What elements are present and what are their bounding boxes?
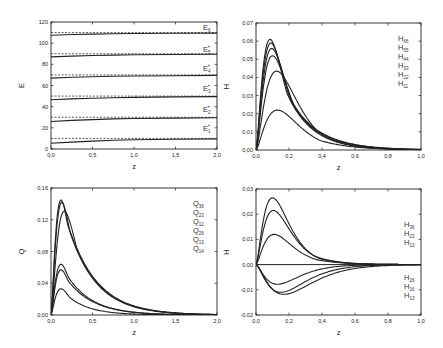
y-tick-label: 0,12: [37, 217, 48, 223]
y-tick-label: 0,07: [242, 20, 253, 26]
chart-Q: 0,00,51,01,52,00,000,040,080,120,16zQQ36…: [17, 185, 221, 337]
series-line-H55: [256, 43, 421, 150]
x-tick-label: 1,0: [417, 318, 425, 324]
figure: 0,00,51,01,52,0020406080100120zEE6E5+E4+…: [0, 0, 443, 348]
y-tick-label: -0,02: [240, 312, 253, 318]
series-line-Q13: [51, 270, 217, 315]
series-line-E1: [51, 139, 217, 143]
legend-label: H13: [404, 291, 415, 301]
y-axis-label: Q: [17, 248, 26, 254]
x-tick-label: 0,0: [47, 318, 55, 324]
y-tick-label: 60: [42, 83, 48, 89]
chart-E: 0,00,51,01,52,0020406080100120zEE6E5+E4+…: [17, 19, 221, 171]
legend-label: E6: [203, 23, 211, 33]
legend-label: E3+: [203, 83, 211, 94]
x-tick-label: 0,8: [384, 153, 392, 159]
y-tick-label: 0,02: [242, 111, 253, 117]
x-axis-label: z: [132, 328, 136, 337]
y-tick-label: 80: [42, 61, 48, 67]
y-tick-label: 0,01: [242, 236, 253, 242]
series-line-H36: [256, 198, 421, 265]
x-tick-label: 0,4: [318, 153, 326, 159]
legend-label: E5+: [203, 44, 211, 55]
y-tick-label: 0: [45, 146, 48, 152]
y-tick-label: 0,01: [242, 129, 253, 135]
x-tick-label: 1,5: [172, 318, 180, 324]
y-tick-label: 0,04: [37, 280, 48, 286]
legend-label: H11: [398, 79, 409, 89]
y-tick-label: 120: [39, 19, 48, 25]
x-tick-label: 0,0: [252, 318, 260, 324]
series-line-E2: [51, 118, 217, 122]
y-tick-label: 0,03: [242, 93, 253, 99]
legend-label: Q14: [193, 244, 204, 254]
chart-H_diag: 0,00,20,40,60,81,00,000,010,020,030,040,…: [222, 20, 425, 172]
legend-label: E2+: [203, 104, 211, 115]
y-axis-label: E: [17, 83, 26, 88]
y-tick-label: 0,03: [242, 186, 253, 192]
y-tick-label: 20: [42, 125, 48, 131]
series-line-Q14: [51, 289, 217, 315]
x-tick-label: 0,2: [285, 153, 293, 159]
plot-frame: [51, 22, 217, 149]
plot-frame: [256, 23, 421, 150]
x-tick-label: 1,0: [417, 153, 425, 159]
y-tick-label: 0,16: [37, 185, 48, 191]
x-tick-label: 0,8: [384, 318, 392, 324]
y-tick-label: 100: [39, 40, 48, 46]
x-tick-label: 0,5: [89, 152, 97, 158]
y-axis-label: H: [222, 84, 231, 89]
series-line-H66: [256, 39, 421, 150]
x-tick-label: 0,6: [351, 318, 359, 324]
series-line-H33: [256, 56, 421, 150]
y-tick-label: 0,04: [242, 74, 253, 80]
x-tick-label: 2,0: [213, 152, 221, 158]
legend-label: E4+: [203, 63, 211, 74]
x-axis-label: z: [337, 328, 341, 337]
chart-H_off: 0,00,20,40,60,81,0-0,02-0,010,000,010,02…: [222, 186, 425, 337]
y-tick-label: 0,05: [242, 56, 253, 62]
x-tick-label: 0,0: [47, 152, 55, 158]
legend-label: H12: [404, 238, 415, 248]
x-tick-label: 1,0: [130, 152, 138, 158]
series-line-H44: [256, 48, 421, 150]
y-tick-label: 0,06: [242, 38, 253, 44]
y-tick-label: 0,02: [242, 211, 253, 217]
series-line-E6: [51, 33, 217, 35]
x-tick-label: 0,6: [351, 153, 359, 159]
series-line-H11: [256, 110, 421, 150]
x-tick-label: 0,2: [285, 318, 293, 324]
legend-label: E1+: [203, 123, 211, 134]
y-tick-label: 0,08: [37, 249, 48, 255]
y-tick-label: 40: [42, 104, 48, 110]
y-tick-label: -0,01: [240, 287, 253, 293]
x-tick-label: 1,5: [172, 152, 180, 158]
x-tick-label: 0,4: [318, 318, 326, 324]
x-axis-label: z: [337, 163, 341, 172]
y-axis-label: H: [222, 249, 231, 254]
x-tick-label: 2,0: [213, 318, 221, 324]
x-tick-label: 0,5: [89, 318, 97, 324]
series-line-H26: [256, 265, 421, 285]
series-line-H16: [256, 265, 421, 293]
x-tick-label: 0,0: [252, 153, 260, 159]
series-line-E5: [51, 54, 217, 57]
series-line-E4: [51, 75, 217, 78]
y-tick-label: 0,00: [242, 262, 253, 268]
series-line-H23: [256, 210, 421, 264]
y-tick-label: 0,00: [242, 147, 253, 153]
series-line-E3: [51, 97, 217, 100]
x-tick-label: 1,0: [130, 318, 138, 324]
series-line-H12: [256, 234, 421, 264]
x-axis-label: z: [132, 162, 136, 171]
y-tick-label: 0,00: [37, 312, 48, 318]
